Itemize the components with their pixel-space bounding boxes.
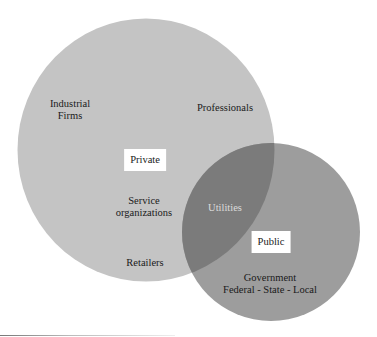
- private-label: Private: [130, 154, 160, 165]
- bottom-rule-divider: [0, 335, 175, 336]
- label-industrial-firms: Industrial Firms: [50, 98, 90, 122]
- venn-diagram: Industrial Firms Professionals Private S…: [0, 0, 377, 337]
- label-professionals: Professionals: [197, 102, 253, 114]
- label-utilities: Utilities: [208, 202, 242, 214]
- public-label-box: Public: [252, 231, 291, 253]
- label-government: Government Federal - State - Local: [223, 272, 317, 296]
- venn-circles: [0, 0, 377, 337]
- label-service-organizations: Service organizations: [116, 195, 172, 219]
- public-label: Public: [258, 236, 285, 247]
- private-label-box: Private: [124, 149, 166, 171]
- label-retailers: Retailers: [126, 257, 163, 269]
